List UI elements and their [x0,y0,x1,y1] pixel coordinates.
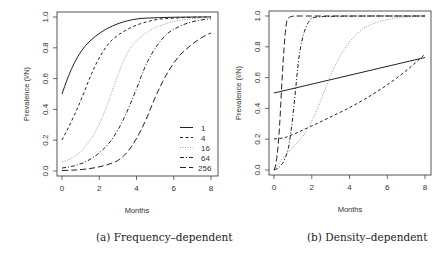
y-axis-ticks [265,16,269,170]
series-256-line [274,16,425,170]
panel-density-dependent: 0.0 0.2 0.4 0.6 0.8 1.0 0 2 4 6 8 Months… [234,10,431,243]
x-tick-label: 6 [385,183,390,192]
legend-item: 1 [180,124,206,133]
y-tick-label: 1.0 [253,10,262,22]
x-tick-label: 8 [423,183,428,192]
legend-label: 16 [201,144,210,153]
legend-label: 4 [201,134,206,143]
y-axis-label: Prevalence (I/N) [234,65,243,120]
y-axis-tick-labels: 0.0 0.2 0.4 0.6 0.8 1.0 [253,10,262,176]
y-tick-label: 0.4 [41,103,50,115]
series-1-line [62,17,211,94]
x-axis-tick-labels: 0 2 4 6 8 [60,184,214,193]
x-axis-label: Months [125,206,150,215]
legend-label: 64 [201,154,210,163]
curves [274,16,425,170]
x-tick-label: 0 [272,183,277,192]
y-tick-label: 0.0 [253,164,262,176]
x-tick-label: 8 [209,184,214,193]
x-tick-label: 0 [60,184,65,193]
y-axis-label: Prevalence (I/N) [22,66,31,121]
panel-caption: (b) Density–dependent [307,231,428,243]
figure: 0.0 0.2 0.4 0.6 0.8 1.0 0 2 4 6 8 Months… [0,0,445,254]
x-axis-tick-labels: 0 2 4 6 8 [272,183,428,192]
y-tick-label: 0.0 [41,165,50,177]
x-tick-label: 4 [134,184,139,193]
y-tick-label: 0.8 [41,42,50,54]
plot-frame [57,12,218,176]
x-axis-label: Months [338,205,363,214]
y-tick-label: 0.6 [41,72,50,84]
y-tick-label: 0.4 [253,102,262,114]
series-64-line [274,16,425,170]
y-axis-tick-labels: 0.0 0.2 0.4 0.6 0.8 1.0 [41,11,50,177]
y-tick-label: 1.0 [41,11,50,23]
legend-item: 4 [180,134,206,143]
series-64-line [62,19,211,168]
y-axis-ticks [53,17,57,171]
x-tick-label: 6 [172,184,177,193]
y-tick-label: 0.6 [253,71,262,83]
legend-item: 256 [180,164,212,173]
y-tick-label: 0.8 [253,41,262,53]
y-tick-label: 0.2 [253,133,262,145]
x-axis-ticks [274,175,425,179]
x-tick-label: 2 [310,183,315,192]
plot-frame [269,11,431,175]
legend-item: 64 [180,154,210,163]
x-axis-ticks [62,176,211,180]
x-tick-label: 2 [97,184,102,193]
legend-item: 16 [180,144,210,153]
series-4-line [62,17,211,140]
panel-frequency-dependent: 0.0 0.2 0.4 0.6 0.8 1.0 0 2 4 6 8 Months… [22,11,233,243]
legend-label: 256 [198,164,212,173]
series-16-line [274,16,425,170]
x-tick-label: 4 [347,183,352,192]
series-256-line [62,33,211,171]
y-tick-label: 0.2 [41,134,50,146]
legend-label: 1 [201,124,206,133]
curves [62,17,211,171]
panel-caption: (a) Frequency–dependent [96,231,233,243]
legend: 1 4 16 64 256 [180,124,212,173]
series-4-line [274,54,425,139]
